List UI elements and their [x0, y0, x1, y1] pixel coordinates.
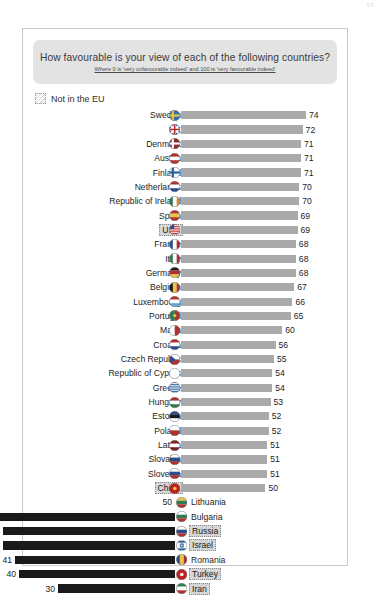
bar: [181, 369, 272, 377]
bar: [181, 168, 301, 176]
bar: [181, 140, 301, 148]
chart-row: Finland 71: [23, 165, 347, 179]
chart-row: France 68: [23, 237, 347, 251]
chart-row: Spain 69: [23, 208, 347, 222]
chart-row: 44 Russia: [23, 524, 347, 538]
bar-value: 54: [275, 368, 285, 378]
legend: Not in the EU: [35, 93, 347, 104]
bar-value: 68: [299, 268, 309, 278]
bar-value: 68: [299, 239, 309, 249]
bar: [181, 197, 299, 205]
bar-value: 71: [304, 153, 314, 163]
bar: [181, 470, 267, 478]
title-band: How favourable is your view of each of t…: [33, 40, 337, 84]
chart-card: How favourable is your view of each of t…: [22, 28, 348, 566]
page-title: How favourable is your view of each of t…: [40, 52, 330, 63]
bar-value: 67: [297, 282, 307, 292]
chart-row: 41 Romania: [23, 553, 347, 567]
bar: [3, 541, 175, 549]
bar: [181, 441, 267, 449]
legend-label: Not in the EU: [51, 94, 105, 104]
flag-spain-icon: [168, 210, 181, 221]
chart-row: Estonia 52: [23, 409, 347, 423]
bar-value: 55: [277, 354, 287, 364]
bar-value: 52: [272, 411, 282, 421]
bar-value: 51: [270, 454, 280, 464]
bar-value: 65: [294, 311, 304, 321]
flag-netherlands-icon: [168, 181, 181, 192]
flag-austria-icon: [168, 153, 181, 164]
bar: [19, 570, 175, 578]
flag-slovenia-icon: [168, 468, 181, 479]
chart-row: Czech Republic 55: [23, 352, 347, 366]
flag-finland-icon: [168, 167, 181, 178]
flag-romania-icon: [175, 554, 188, 565]
chart-row: Portugal 65: [23, 309, 347, 323]
flag-turkey-icon: [175, 569, 188, 580]
country-label: Lithuania: [189, 497, 228, 507]
chart-row: Republic of Cyprus 54: [23, 366, 347, 380]
chart-row: China 50: [23, 481, 347, 495]
bar-value: 60: [285, 325, 295, 335]
flag-croatia-icon: [168, 339, 181, 350]
bar-value: 50: [153, 497, 172, 507]
chart-row: Latvia 51: [23, 438, 347, 452]
chart-row: UK 72: [23, 122, 347, 136]
bar: [181, 484, 265, 492]
bar: [0, 513, 175, 521]
bar: [181, 298, 292, 306]
hatched-swatch-icon: [35, 93, 46, 104]
bar-value: 71: [304, 168, 314, 178]
flag-usa-icon: [168, 224, 181, 235]
flag-greece-icon: [168, 382, 181, 393]
bar: [181, 183, 299, 191]
page-number: 55: [366, 2, 374, 8]
bar-value: 66: [295, 297, 305, 307]
chart-row: Slovenia 51: [23, 467, 347, 481]
bar-value: 69: [301, 225, 311, 235]
bar-value: 56: [279, 340, 289, 350]
flag-uk-icon: [168, 124, 181, 135]
country-label: Israel: [189, 539, 216, 551]
flag-israel-icon: [175, 540, 188, 551]
flag-luxembourg-icon: [168, 296, 181, 307]
bar-value: 41: [0, 555, 12, 565]
bar-value: 70: [302, 182, 312, 192]
bar: [181, 341, 276, 349]
chart-row: 47 Bulgaria: [23, 510, 347, 524]
bar: [181, 211, 298, 219]
chart-row: Slovakia 51: [23, 452, 347, 466]
bar-value: 51: [270, 469, 280, 479]
flag-denmark-icon: [168, 138, 181, 149]
bar: [181, 398, 271, 406]
flag-slovakia-icon: [168, 454, 181, 465]
country-label: Iran: [189, 583, 210, 595]
chart-row: Germany 68: [23, 266, 347, 280]
bar: [181, 427, 269, 435]
flag-latvia-icon: [168, 440, 181, 451]
bar-value: 69: [301, 211, 311, 221]
chart-row: Sweden 74: [23, 108, 347, 122]
bar-value: 54: [275, 383, 285, 393]
chart-row: Republic of Ireland 70: [23, 194, 347, 208]
bar: [181, 283, 294, 291]
flag-belgium-icon: [168, 282, 181, 293]
bar: [3, 527, 175, 535]
bar-value: 70: [302, 196, 312, 206]
page-subtitle: Where 0 is 'very unfavourable indeed' an…: [95, 66, 276, 72]
flag-germany-icon: [168, 267, 181, 278]
chart-row: Italy 68: [23, 251, 347, 265]
chart-row: Belgium 67: [23, 280, 347, 294]
chart-row: 30 Iran: [23, 581, 347, 595]
bar: [181, 240, 296, 248]
bar: [181, 384, 272, 392]
country-label: Turkey: [189, 568, 221, 580]
country-label: Russia: [189, 525, 221, 537]
bar: [181, 269, 296, 277]
bar: [181, 455, 267, 463]
bar-value: 74: [309, 110, 319, 120]
chart-row: Greece 54: [23, 381, 347, 395]
flag-france-icon: [168, 239, 181, 250]
bar: [181, 154, 301, 162]
bar-value: 71: [304, 139, 314, 149]
